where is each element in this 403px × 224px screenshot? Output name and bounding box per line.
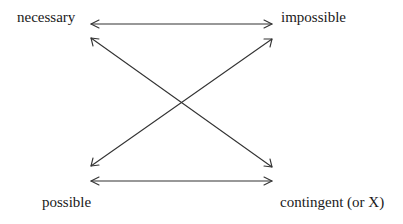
arrow-impossible-possible — [91, 39, 272, 166]
arrow-necessary-impossible — [91, 20, 272, 28]
arrow-possible-contingent — [91, 177, 272, 185]
arrows-layer — [0, 0, 403, 224]
